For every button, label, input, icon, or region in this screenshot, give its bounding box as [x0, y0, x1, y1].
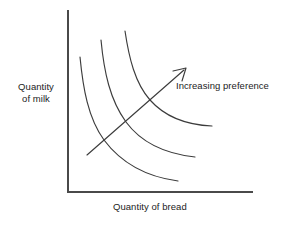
indifference-curve-1 [80, 57, 178, 181]
indifference-curves-group [80, 31, 212, 181]
indifference-curve-figure: Quantity of milk Quantity of bread Incre… [0, 0, 302, 227]
x-axis-label: Quantity of bread [113, 201, 187, 213]
indifference-curve-3 [125, 31, 212, 126]
increasing-preference-arrow [87, 68, 186, 155]
y-axis-label-line2: of milk [8, 93, 64, 105]
arrow-shaft [87, 70, 184, 155]
increasing-preference-label: Increasing preference [176, 80, 269, 92]
y-axis-label: Quantity of milk [8, 81, 64, 104]
chart-canvas [0, 0, 302, 227]
y-axis-label-line1: Quantity [8, 81, 64, 93]
axes-group [68, 11, 252, 192]
